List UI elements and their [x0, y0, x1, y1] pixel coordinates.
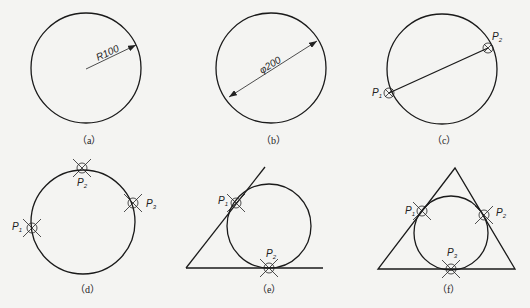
snap-marker-p2 — [73, 159, 91, 177]
panel-d: P2 P3 P1 （d） — [12, 159, 157, 295]
label-p1: P1 — [12, 221, 22, 233]
panel-f: P1 P2 P3 （f） — [378, 168, 515, 295]
caption-c: （c） — [432, 135, 456, 146]
label-p2: P2 — [266, 248, 277, 260]
caption-e: （e） — [257, 284, 281, 295]
caption-f: （f） — [437, 284, 460, 295]
tangent-line-1 — [186, 167, 265, 268]
label-p3: P3 — [146, 198, 157, 210]
circle-drawing-methods-diagram: R100 （a） φ200 （b） P1 P2 （c） P2 P3 P1 （d） — [0, 0, 530, 308]
circle — [31, 13, 141, 123]
caption-a: （a） — [77, 135, 101, 146]
label-p2: P2 — [496, 207, 507, 219]
radius-dimension-text: R100 — [94, 43, 121, 63]
panel-c: P1 P2 （c） — [372, 14, 503, 146]
label-p2: P2 — [492, 31, 503, 43]
snap-marker-p2 — [475, 206, 493, 224]
label-p1: P1 — [405, 205, 415, 217]
caption-d: （d） — [75, 284, 100, 295]
diameter-dimension-text: φ200 — [257, 54, 283, 76]
caption-b: （b） — [261, 135, 286, 146]
label-p2: P2 — [77, 177, 88, 189]
panel-b: φ200 （b） — [216, 13, 326, 146]
panel-a: R100 （a） — [31, 13, 141, 146]
panel-e: P1 P2 （e） — [186, 167, 323, 295]
snap-marker-p1 — [413, 202, 431, 220]
snap-marker-p1 — [227, 194, 245, 212]
label-p1: P1 — [372, 87, 382, 99]
label-p3: P3 — [447, 247, 458, 259]
chord-line — [389, 48, 488, 93]
label-p1: P1 — [218, 195, 228, 207]
snap-marker-p2 — [483, 43, 493, 53]
